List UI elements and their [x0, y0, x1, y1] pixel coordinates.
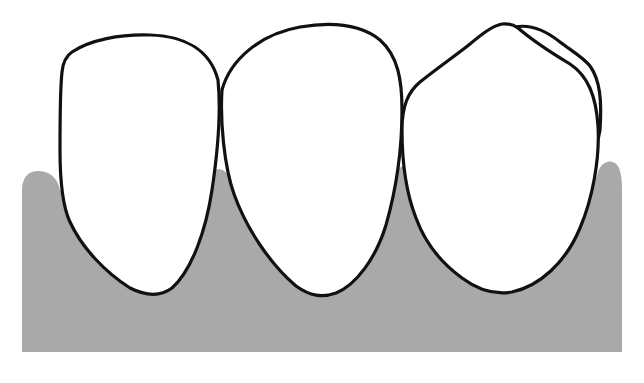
diagram-svg — [0, 0, 644, 383]
dental-diagram — [0, 0, 644, 383]
